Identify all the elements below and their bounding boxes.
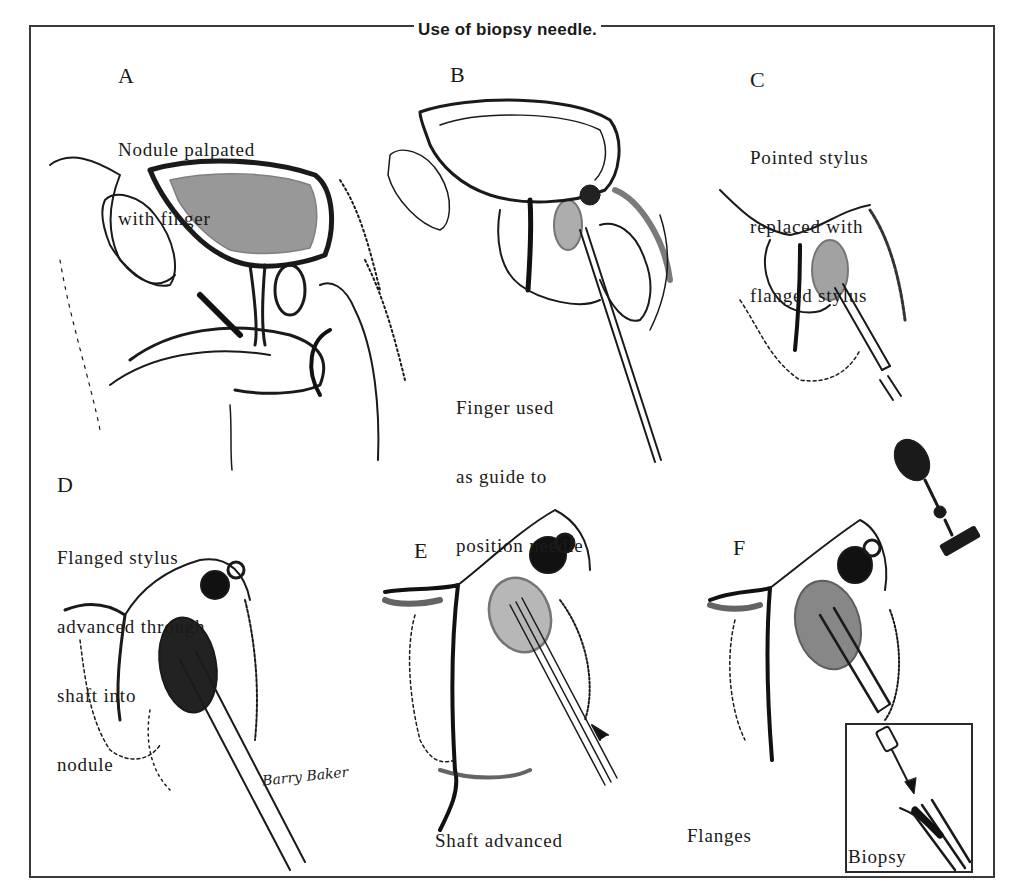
caption-f-line: Flanges: [687, 824, 798, 847]
caption-b-line: Finger used: [456, 396, 584, 419]
caption-d-line: Flanged stylus: [57, 546, 205, 569]
caption-c: Pointed stylus replaced with flanged sty…: [750, 100, 868, 330]
caption-e: Shaft advanced over flanges: [435, 783, 563, 893]
panel-label-d: D: [57, 472, 73, 498]
inset-label-biopsy: Biopsy: [848, 846, 909, 868]
caption-c-line: Pointed stylus: [750, 146, 868, 169]
panel-label-a: A: [118, 63, 134, 89]
caption-f: Flanges with biopsy withdrawn through sh…: [687, 778, 798, 893]
caption-d-line: nodule: [57, 753, 205, 776]
caption-b-line: position needle: [456, 534, 584, 557]
panel-label-c: C: [750, 67, 765, 93]
caption-c-line: replaced with: [750, 215, 868, 238]
panel-label-f: F: [733, 535, 745, 561]
caption-a-line: Nodule palpated: [118, 138, 255, 161]
caption-c-line: flanged stylus: [750, 284, 868, 307]
caption-e-line: Shaft advanced: [435, 829, 563, 852]
caption-d-line: shaft into: [57, 684, 205, 707]
panel-label-b: B: [450, 62, 465, 88]
panel-label-e: E: [414, 538, 427, 564]
caption-a: Nodule palpated with finger: [118, 92, 255, 253]
caption-b: Finger used as guide to position needle: [456, 350, 584, 580]
caption-a-line: with finger: [118, 207, 255, 230]
caption-b-line: as guide to: [456, 465, 584, 488]
caption-d-line: advanced through: [57, 615, 205, 638]
caption-d: Flanged stylus advanced through shaft in…: [57, 500, 205, 799]
